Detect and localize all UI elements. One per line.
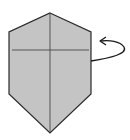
turn-over-arrow xyxy=(91,41,125,61)
origami-diagram xyxy=(0,0,130,140)
